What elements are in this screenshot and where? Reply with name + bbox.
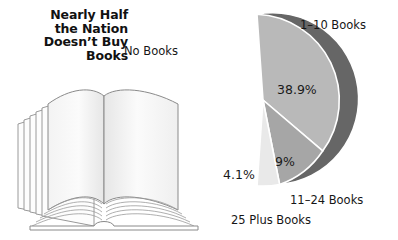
pie-value-1-10-books: 38.9% bbox=[277, 83, 317, 97]
pie-label-1-10-books: 1–10 Books bbox=[300, 19, 366, 32]
pie-label-25-plus-books: 25 Plus Books bbox=[231, 214, 311, 227]
book-right-page bbox=[104, 90, 178, 210]
book-bottom-edge bbox=[30, 222, 198, 231]
pie-label-no-books: No Books bbox=[124, 45, 178, 58]
page-title: Nearly Half the Nation Doesn’t Buy Books bbox=[6, 8, 128, 62]
book-gutter-lines-right bbox=[106, 198, 194, 226]
pie-value-11-24-books: 9% bbox=[275, 155, 295, 169]
pie-label-11-24-books: 11–24 Books bbox=[290, 194, 363, 207]
pie-value-25-plus-books: 4.1% bbox=[223, 168, 255, 182]
pie-chart bbox=[170, 4, 366, 200]
infographic-root: Nearly Half the Nation Doesn’t Buy Books bbox=[0, 0, 398, 240]
pie-value-no-books: 48% bbox=[197, 79, 225, 93]
book-left-page bbox=[48, 90, 104, 210]
